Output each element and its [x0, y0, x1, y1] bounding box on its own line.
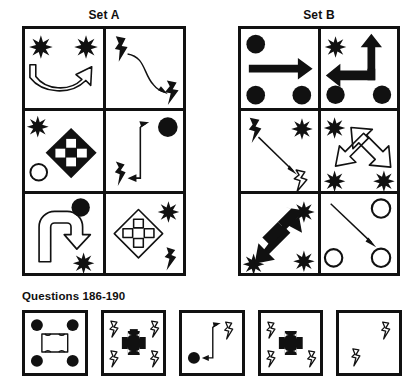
arrow-diagonal-thin — [258, 137, 293, 171]
set-a-cell-4[interactable] — [106, 111, 184, 190]
answer-options-row — [22, 310, 402, 376]
star-black — [74, 35, 98, 59]
diamond-arrow-outline — [114, 209, 162, 257]
cross-notched-black — [121, 329, 145, 355]
lightning-black — [114, 36, 127, 62]
star-black — [291, 119, 312, 140]
option-5[interactable] — [336, 310, 402, 376]
star-black — [157, 201, 178, 222]
set-b-cell-6[interactable] — [321, 194, 398, 273]
cross-notched-black — [279, 331, 303, 355]
circle-black — [31, 319, 79, 367]
set-b-title: Set B — [238, 8, 400, 22]
set-a-grid — [22, 26, 186, 276]
worksheet-page: Set A — [0, 0, 420, 391]
set-a-cell-2[interactable] — [106, 29, 184, 108]
set-a-cell-3[interactable] — [25, 111, 103, 190]
star-black — [324, 36, 345, 57]
set-a-cell-1[interactable] — [25, 29, 103, 108]
star-black — [29, 35, 53, 59]
arrow-bent-thin — [206, 324, 218, 358]
lightning-outline — [352, 322, 390, 366]
set-b-cell-4[interactable] — [321, 111, 398, 190]
option-3[interactable] — [179, 310, 245, 376]
star-black — [27, 116, 49, 138]
option-2[interactable] — [101, 310, 167, 376]
option-1[interactable] — [22, 310, 88, 376]
set-b-cell-3[interactable] — [241, 111, 318, 190]
set-a-title: Set A — [22, 8, 186, 22]
circle-black — [188, 352, 200, 364]
arrow-curved-thin — [127, 54, 164, 92]
set-a-cell-6[interactable] — [106, 194, 184, 273]
star-black — [73, 252, 94, 273]
lightning-black — [164, 80, 178, 105]
arrow-double-diagonal-outline — [335, 128, 390, 168]
lightning-outline — [294, 170, 307, 190]
lightning-black — [164, 247, 176, 270]
set-b-cell-1[interactable] — [241, 29, 318, 108]
arrow-diagonal-thin — [330, 203, 371, 242]
questions-label: Questions 186-190 — [22, 290, 125, 302]
square-notched-outline — [42, 334, 68, 352]
option-4[interactable] — [258, 310, 324, 376]
lightning-black — [114, 162, 125, 187]
circle-outline — [30, 164, 47, 181]
lightning-outline — [225, 322, 233, 339]
arrow-straight-black-right — [249, 58, 313, 80]
arrow-hook-outline — [39, 211, 90, 261]
circle-black — [326, 86, 391, 104]
diamond-arrow-black — [46, 128, 97, 178]
arrow-bent-thin — [202, 322, 221, 361]
set-b-cell-2[interactable] — [321, 29, 398, 108]
set-a-cell-5[interactable] — [25, 194, 103, 273]
arrow-bent-thin — [132, 124, 146, 179]
arrow-curved-thin — [157, 86, 167, 94]
circle-black — [157, 118, 177, 138]
circle-outline — [324, 199, 389, 267]
arrow-bent-thin — [127, 122, 149, 183]
set-b-grid — [238, 26, 400, 276]
arrow-curved-outline-u — [30, 65, 92, 91]
set-b-cell-5[interactable] — [241, 194, 318, 273]
lightning-black — [249, 118, 262, 143]
